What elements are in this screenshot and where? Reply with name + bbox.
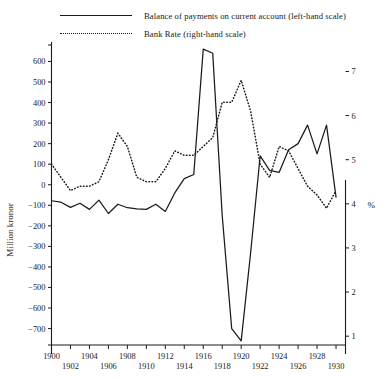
x-axis-tick-label: 1906 bbox=[100, 362, 117, 371]
y-axis-tick-label: 300 bbox=[33, 119, 46, 128]
y2-axis-tick-label: 5 bbox=[352, 156, 356, 165]
y-axis-tick-label: 0 bbox=[41, 181, 45, 190]
y-axis-tick-label: 400 bbox=[33, 99, 46, 108]
y-axis-tick-label: 600 bbox=[33, 57, 46, 66]
y-axis-tick-label: −400 bbox=[28, 263, 45, 272]
y-axis-tick-label: −500 bbox=[28, 283, 45, 292]
x-axis-tick-label: 1902 bbox=[62, 362, 79, 371]
x-axis-tick-label: 1928 bbox=[309, 352, 326, 361]
y-axis-tick-label: 500 bbox=[33, 78, 46, 87]
series-line-balance-of-payments bbox=[52, 49, 337, 341]
chart-series-lines bbox=[52, 49, 337, 341]
y2-axis-tick-label: 1 bbox=[352, 332, 356, 341]
series-line-bank-rate bbox=[52, 80, 337, 208]
chart-tick-labels: 6005004003002001000−100−200−300−400−500−… bbox=[5, 57, 376, 371]
y-axis-tick-label: 100 bbox=[33, 160, 46, 169]
y-axis-title: Million kronor bbox=[5, 203, 15, 256]
chart-plot-area: 6005004003002001000−100−200−300−400−500−… bbox=[0, 0, 387, 380]
chart-axes bbox=[52, 42, 346, 354]
x-axis-tick-label: 1918 bbox=[214, 362, 231, 371]
x-axis-tick-label: 1910 bbox=[138, 362, 155, 371]
y-axis-tick-label: −600 bbox=[28, 304, 45, 313]
y-axis-tick-label: −200 bbox=[28, 222, 45, 231]
y2-axis-tick-label: 3 bbox=[352, 244, 356, 253]
x-axis-tick-label: 1916 bbox=[195, 352, 212, 361]
y2-axis-tick-label: 2 bbox=[352, 288, 356, 297]
y2-axis-title: % bbox=[368, 200, 376, 210]
y-axis-tick-label: 200 bbox=[33, 140, 46, 149]
x-axis-tick-label: 1900 bbox=[43, 352, 60, 361]
x-axis-tick-label: 1914 bbox=[176, 362, 194, 371]
y2-axis-tick-label: 4 bbox=[352, 200, 357, 209]
x-axis-tick-label: 1908 bbox=[119, 352, 136, 361]
chart-tick-marks bbox=[48, 45, 349, 349]
y2-axis-tick-label: 6 bbox=[352, 112, 356, 121]
x-axis-tick-label: 1926 bbox=[290, 362, 307, 371]
x-axis-tick-label: 1924 bbox=[271, 352, 289, 361]
x-axis-tick-label: 1930 bbox=[328, 362, 345, 371]
y-axis-tick-label: −300 bbox=[28, 242, 45, 251]
y-axis-tick-label: −100 bbox=[28, 201, 45, 210]
x-axis-tick-label: 1920 bbox=[233, 352, 250, 361]
x-axis-tick-label: 1922 bbox=[252, 362, 269, 371]
x-axis-tick-label: 1904 bbox=[81, 352, 99, 361]
chart-figure: Balance of payments on current account (… bbox=[0, 0, 387, 380]
y-axis-tick-label: −700 bbox=[28, 325, 45, 334]
x-axis-tick-label: 1912 bbox=[157, 352, 174, 361]
y2-axis-tick-label: 7 bbox=[352, 67, 356, 76]
